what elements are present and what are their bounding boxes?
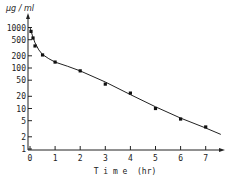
y-tick-label: 500 — [12, 36, 27, 45]
data-point — [54, 60, 57, 63]
data-point — [31, 36, 34, 39]
concentration-time-chart: µg / ml 1251020501002005001000 01234567 … — [0, 0, 232, 182]
data-point — [154, 107, 157, 110]
axes — [26, 13, 225, 152]
y-axis-unit-label: µg / ml — [5, 4, 35, 13]
x-tick-label: 2 — [78, 154, 83, 163]
y-tick-label: 10 — [16, 105, 26, 114]
x-tick-label: 3 — [103, 154, 108, 163]
fit-curve — [30, 28, 221, 135]
y-tick-label: 1 — [21, 145, 26, 154]
data-point — [104, 83, 107, 86]
data-point — [179, 117, 182, 120]
y-tick-label: 1000 — [7, 24, 26, 33]
y-tick-label: 5 — [21, 117, 26, 126]
y-tick-label: 20 — [16, 92, 26, 101]
x-ticks: 01234567 — [28, 146, 209, 163]
y-tick-label: 100 — [12, 64, 27, 73]
x-tick-label: 1 — [53, 154, 58, 163]
x-tick-label: 4 — [128, 154, 133, 163]
data-point — [33, 44, 36, 47]
x-axis-arrow-icon — [219, 148, 225, 152]
x-tick-label: 7 — [203, 154, 208, 163]
x-axis-label: T i m e (hr) — [94, 167, 157, 176]
data-points — [29, 30, 207, 129]
x-tick-label: 6 — [178, 154, 183, 163]
data-point — [29, 30, 32, 33]
data-point — [79, 69, 82, 72]
y-tick-label: 50 — [16, 76, 26, 85]
y-tick-label: 2 — [21, 133, 26, 142]
data-point — [129, 92, 132, 95]
x-tick-label: 0 — [28, 154, 33, 163]
data-point — [41, 53, 44, 56]
y-axis-arrow-icon — [26, 13, 30, 19]
x-tick-label: 5 — [153, 154, 158, 163]
y-tick-label: 200 — [12, 52, 27, 61]
data-point — [204, 125, 207, 128]
